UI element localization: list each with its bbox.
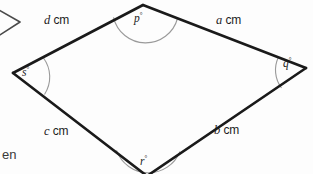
side-d-line	[13, 5, 143, 73]
side-c-line	[13, 73, 147, 174]
angle-arc-q	[275, 57, 281, 88]
angle-arc-p	[114, 17, 178, 43]
chevron-right-marker-icon	[0, 6, 20, 40]
diagram-page: d cm a cm c cm b cm p° q° r° s° en	[0, 0, 313, 174]
quadrilateral-diagram	[0, 0, 313, 174]
side-b-line	[147, 68, 306, 174]
angle-arc-s	[44, 58, 50, 95]
side-a-line	[143, 5, 306, 68]
